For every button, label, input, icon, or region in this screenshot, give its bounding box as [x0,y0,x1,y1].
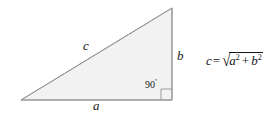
degree-symbol: º [155,78,157,86]
term-b-exponent: 2 [258,53,262,62]
right-angle-value: 90 [145,79,155,90]
right-angle-label: 90º [145,80,157,90]
pythagorean-formula: c=√a2+b2 [206,52,263,68]
pythagorean-theorem-figure: c b a 90º c=√a2+b2 [0,0,274,120]
formula-plus-operator: + [242,53,249,68]
square-root-expression: √a2+b2 [221,52,263,68]
vertical-side-label: b [177,49,184,62]
base-side-label: a [93,99,100,112]
formula-equals-sign: = [213,53,220,68]
radicand: a2+b2 [229,52,262,67]
hypotenuse-label: c [83,39,89,52]
term-a-exponent: 2 [236,53,240,62]
formula-result-variable: c [206,53,212,68]
